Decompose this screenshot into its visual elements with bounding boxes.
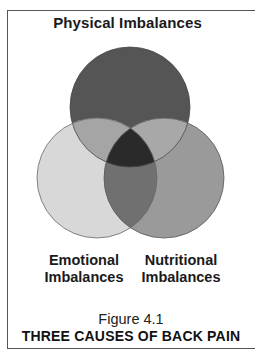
figure-caption: THREE CAUSES OF BACK PAIN [7,328,255,344]
venn-diagram [0,0,255,360]
emotional-label-line2: Imbalances [28,269,140,286]
figure-number: Figure 4.1 [7,311,255,327]
nutritional-label-line2: Imbalances [125,269,237,286]
nutritional-imbalances-label: Nutritional Imbalances [125,252,237,286]
emotional-label-line1: Emotional [28,252,140,269]
emotional-imbalances-label: Emotional Imbalances [28,252,140,286]
nutritional-label-line1: Nutritional [125,252,237,269]
